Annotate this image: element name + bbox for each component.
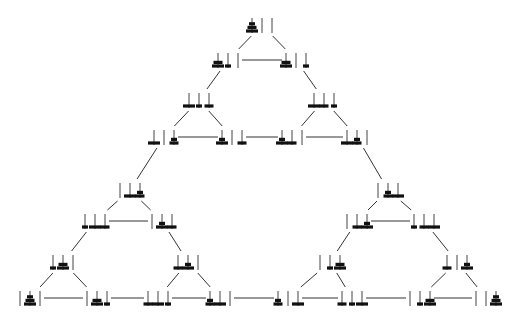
edge-n3-n6	[209, 111, 222, 126]
disk-1	[354, 138, 360, 141]
edge-n4-n7	[302, 111, 315, 126]
disk-1	[171, 138, 177, 141]
state-node	[378, 183, 404, 198]
disk-1	[279, 138, 285, 141]
disk-3	[490, 302, 502, 305]
disk-1	[82, 225, 88, 228]
disk-2	[59, 263, 68, 266]
disk-2	[274, 302, 283, 305]
edge-n18-n26	[466, 273, 477, 287]
edge-n11-n15	[72, 232, 87, 251]
state-node	[280, 53, 309, 68]
disk-1	[225, 64, 231, 67]
disk-1	[104, 302, 110, 305]
disk-2	[168, 225, 177, 228]
disk-2	[420, 225, 429, 228]
disk-2	[338, 302, 347, 305]
disk-2	[336, 263, 345, 266]
edge-n16-n21	[167, 273, 179, 287]
disk-3	[424, 302, 436, 305]
edge-n9-n11	[107, 201, 117, 210]
disk-2	[320, 104, 329, 107]
disk-2	[248, 26, 257, 29]
state-node	[308, 93, 337, 108]
state-node	[87, 291, 110, 306]
disk-3	[308, 104, 320, 107]
disk-3	[182, 266, 194, 269]
disk-1	[165, 302, 171, 305]
edge-n17-n23	[301, 273, 317, 287]
state-node	[82, 214, 110, 229]
state-node	[443, 255, 474, 270]
disk-3	[152, 302, 164, 305]
disk-2	[288, 141, 297, 144]
disk-1	[249, 22, 255, 25]
disk-1	[207, 299, 213, 302]
disk-1	[219, 138, 225, 141]
state-node	[411, 214, 440, 229]
disk-2	[238, 141, 247, 144]
state-node	[476, 291, 502, 306]
disk-3	[89, 225, 101, 228]
disk-3	[361, 225, 373, 228]
disk-2	[384, 194, 393, 197]
state-node	[276, 130, 302, 145]
edge-n5-n9	[137, 148, 157, 179]
disk-3	[216, 141, 228, 144]
disk-3	[24, 302, 36, 305]
hanoi-state-graph	[0, 0, 514, 326]
edges-layer	[40, 36, 477, 298]
state-node	[120, 183, 145, 198]
disk-1	[464, 263, 470, 266]
disk-2	[443, 266, 452, 269]
edge-n12-n16	[169, 232, 181, 251]
disk-1	[327, 266, 333, 269]
state-node	[152, 214, 177, 229]
state-node	[338, 291, 369, 306]
state-node	[341, 130, 367, 145]
state-node	[20, 291, 40, 306]
disk-1	[417, 302, 423, 305]
disk-2	[492, 299, 501, 302]
disk-3	[292, 302, 304, 305]
disk-3	[156, 225, 168, 228]
disk-2	[144, 302, 153, 305]
state-node	[320, 255, 346, 270]
disk-2	[353, 141, 362, 144]
edge-n15-n19	[40, 273, 53, 287]
edge-n10-n14	[401, 201, 411, 210]
disk-1	[331, 104, 337, 107]
edge-n8-n10	[363, 148, 381, 179]
disk-2	[214, 61, 223, 64]
disk-3	[212, 64, 224, 67]
disk-3	[148, 141, 160, 144]
edge-n18-n25	[431, 273, 445, 287]
disk-2	[101, 225, 110, 228]
disk-1	[303, 64, 309, 67]
nodes-layer	[20, 18, 502, 306]
edge-n10-n13	[368, 201, 377, 210]
disk-1	[364, 222, 370, 225]
state-node	[174, 255, 199, 270]
disk-1	[275, 299, 281, 302]
disk-3	[461, 266, 473, 269]
disk-2	[93, 299, 102, 302]
disk-3	[246, 29, 258, 32]
disk-2	[174, 266, 183, 269]
disk-2	[170, 141, 179, 144]
disk-1	[196, 104, 202, 107]
disk-1	[493, 295, 499, 298]
edge-n17-n24	[337, 273, 346, 287]
disk-3	[276, 141, 288, 144]
disk-1	[385, 191, 391, 194]
disk-2	[353, 225, 362, 228]
disk-1	[137, 191, 143, 194]
disk-2	[136, 194, 145, 197]
disk-3	[57, 266, 69, 269]
state-node	[148, 130, 179, 145]
disk-2	[205, 104, 214, 107]
state-node	[206, 291, 231, 306]
state-node	[50, 255, 73, 270]
disk-2	[426, 299, 435, 302]
state-node	[246, 18, 272, 33]
